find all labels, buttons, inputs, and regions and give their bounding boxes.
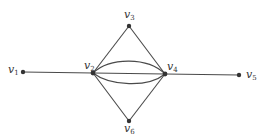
edge-v1-v2	[23, 72, 93, 73]
label-v4: v4	[167, 61, 178, 74]
label-v6: v6	[124, 123, 135, 136]
label-v2: v2	[84, 60, 95, 73]
node-v1	[21, 70, 25, 74]
label-v1: v1	[8, 64, 19, 77]
edge-v4-v5	[165, 74, 239, 75]
edge-v2-v4-lower	[93, 73, 165, 84]
label-v3: v3	[124, 9, 135, 22]
edge-v2-v3	[93, 26, 129, 73]
edge-v3-v4	[129, 26, 165, 74]
edge-v2-v4-straight	[93, 73, 165, 74]
node-v3	[127, 24, 131, 28]
edge-v2-v4-upper	[93, 61, 165, 74]
edge-v2-v6	[93, 73, 129, 121]
label-v5: v5	[246, 69, 257, 82]
edge-v6-v4	[129, 74, 165, 121]
node-v5	[237, 73, 241, 77]
